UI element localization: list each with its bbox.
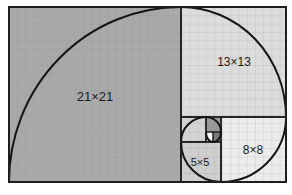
diagram-canvas: 21×21 13×13 8×8 5×5 — [0, 0, 292, 195]
label-13x13: 13×13 — [217, 55, 251, 69]
label-8x8: 8×8 — [243, 143, 264, 157]
label-5x5: 5×5 — [191, 156, 210, 168]
label-21x21: 21×21 — [77, 89, 114, 104]
fibonacci-spiral-diagram: 21×21 13×13 8×8 5×5 — [0, 0, 292, 195]
